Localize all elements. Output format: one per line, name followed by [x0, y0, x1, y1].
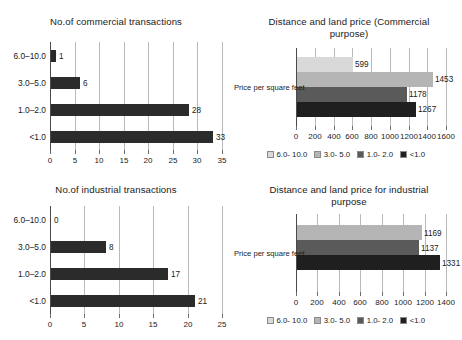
- axis-tick-label: 30: [193, 156, 202, 165]
- bar: [51, 131, 213, 143]
- bar: [51, 50, 56, 62]
- axis-tick-label: 1200: [400, 132, 418, 141]
- legend-item[interactable]: <1.0: [400, 150, 425, 159]
- axis-tick: [188, 314, 189, 318]
- bar-value-label: 1169: [424, 228, 442, 237]
- axis-tick: [173, 150, 174, 154]
- bar: [297, 72, 433, 87]
- chart-panel-commercial-land-price: Distance and land price (Commercial purp…: [230, 10, 462, 170]
- axis-tick: [425, 292, 426, 296]
- axis-tick: [222, 314, 223, 318]
- bar: [51, 241, 106, 253]
- axis-tick: [119, 314, 120, 318]
- chart-title-line-1: Distance and land price for industrial: [244, 184, 454, 196]
- axis-tick: [197, 150, 198, 154]
- legend-item[interactable]: <1.0: [400, 316, 425, 325]
- axis-tick-label: 0: [48, 156, 52, 165]
- chart-title-industrial-transactions: No.of industrial transactions: [0, 184, 232, 196]
- axis-tick-label: 1200: [416, 298, 434, 307]
- axis-tick: [403, 292, 404, 296]
- bar-value-label: 1: [59, 51, 64, 60]
- axis-tick-label: 15: [120, 156, 129, 165]
- axis-tick: [339, 292, 340, 296]
- legend-label: <1.0: [410, 150, 425, 159]
- bar: [297, 255, 440, 270]
- axis-tick-label: 1600: [437, 132, 455, 141]
- axis-tick: [99, 150, 100, 154]
- bar-value-label: 8: [109, 242, 114, 251]
- legend-label: 3.0- 5.0: [324, 150, 350, 159]
- plot-area-industrial-land-price: [296, 214, 446, 292]
- axis-tick: [382, 292, 383, 296]
- bar-value-label: 599: [355, 60, 369, 69]
- axis-tick: [352, 126, 353, 130]
- axis-tick: [50, 150, 51, 154]
- category-label: 1.0–2.0: [0, 269, 46, 279]
- bar-value-label: 17: [171, 269, 180, 278]
- axis-tick-label: 20: [184, 320, 193, 329]
- series-axis-label: Price per square feet: [234, 83, 292, 92]
- axis-tick-label: 0: [294, 132, 298, 141]
- axis-tick: [222, 150, 223, 154]
- axis-tick: [153, 314, 154, 318]
- axis-tick: [360, 292, 361, 296]
- axis-tick-label: 0: [294, 298, 298, 307]
- legend-swatch: [314, 317, 321, 324]
- bar: [297, 57, 353, 72]
- bar-value-label: 1137: [421, 243, 439, 252]
- category-label: 6.0–10.0: [0, 215, 46, 225]
- legend-item[interactable]: 1.0- 2.0: [357, 150, 393, 159]
- legend-commercial-land-price: 6.0- 10.03.0- 5.01.0- 2.0<1.0: [230, 150, 462, 159]
- series-axis-label: Price per square feet: [234, 249, 292, 258]
- chart-panel-commercial-transactions: No.of commercial transactions 0510152025…: [0, 10, 232, 170]
- plot-area-industrial-transactions: [50, 206, 222, 314]
- bar-value-label: 0: [54, 215, 59, 224]
- legend-item[interactable]: 3.0- 5.0: [314, 150, 350, 159]
- axis-tick-label: 1000: [381, 132, 399, 141]
- legend-swatch: [267, 151, 274, 158]
- bar-value-label: 1178: [409, 90, 427, 99]
- bar: [297, 87, 407, 102]
- axis-tick-label: 10: [95, 156, 104, 165]
- axis-tick: [315, 126, 316, 130]
- chart-title-commercial-land-price: Distance and land price (Commercial purp…: [244, 16, 454, 40]
- axis-tick-label: 400: [327, 132, 340, 141]
- gridline: [446, 48, 447, 126]
- axis-tick-label: 600: [345, 132, 358, 141]
- axis-tick-label: 800: [364, 132, 377, 141]
- category-label: <1.0: [0, 132, 46, 142]
- legend-item[interactable]: 3.0- 5.0: [314, 316, 350, 325]
- category-label: 6.0–10.0: [0, 51, 46, 61]
- axis-tick-label: 20: [144, 156, 153, 165]
- legend-industrial-land-price: 6.0- 10.03.0- 5.01.0- 2.0<1.0: [230, 316, 462, 325]
- axis-tick-label: 15: [149, 320, 158, 329]
- axis-tick: [75, 150, 76, 154]
- legend-swatch: [357, 317, 364, 324]
- bar-value-label: 1267: [418, 105, 436, 114]
- axis-tick: [124, 150, 125, 154]
- axis-tick-label: 400: [332, 298, 345, 307]
- legend-swatch: [267, 317, 274, 324]
- bar-value-label: 1331: [442, 258, 460, 267]
- legend-item[interactable]: 6.0- 10.0: [267, 150, 307, 159]
- axis-tick-label: 1400: [437, 298, 455, 307]
- axis-tick: [296, 126, 297, 130]
- axis-tick: [409, 126, 410, 130]
- chart-title-industrial-land-price: Distance and land price for industrial p…: [244, 184, 454, 208]
- axis-tick-label: 5: [82, 320, 86, 329]
- axis-tick: [427, 126, 428, 130]
- axis-tick: [50, 314, 51, 318]
- legend-label: 1.0- 2.0: [367, 150, 393, 159]
- legend-item[interactable]: 6.0- 10.0: [267, 316, 307, 325]
- bar: [51, 77, 80, 89]
- bar-value-label: 6: [83, 78, 88, 87]
- figure-canvas: No.of commercial transactions 0510152025…: [0, 0, 462, 340]
- bar-value-label: 1453: [435, 75, 453, 84]
- axis-tick-label: 0: [48, 320, 52, 329]
- axis-tick-label: 800: [375, 298, 388, 307]
- axis-tick-label: 1000: [394, 298, 412, 307]
- axis-tick: [84, 314, 85, 318]
- legend-item[interactable]: 1.0- 2.0: [357, 316, 393, 325]
- axis-tick: [334, 126, 335, 130]
- legend-label: <1.0: [410, 316, 425, 325]
